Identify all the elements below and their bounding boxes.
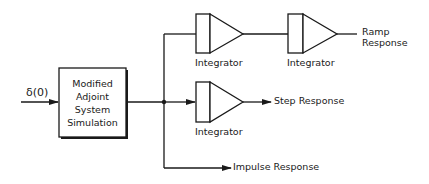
input-label: δ(0) — [26, 86, 48, 99]
main-block-line-3: System — [75, 103, 110, 116]
main-block-line-1: Modified — [72, 77, 113, 90]
ramp-response-label: Ramp Response — [362, 27, 408, 49]
integrator-2-label: Integrator — [287, 58, 335, 69]
integrator-3-label: Integrator — [195, 127, 243, 138]
main-block-line-2: Adjoint — [76, 90, 109, 103]
ramp-response-line-2: Response — [362, 38, 408, 49]
main-block-line-4: Simulation — [67, 116, 118, 129]
integrator-3 — [196, 82, 243, 122]
impulse-response-label: Impulse Response — [233, 162, 319, 173]
integrator-1-label: Integrator — [195, 58, 243, 69]
integrator-2 — [288, 14, 337, 53]
main-block-label: Modified Adjoint System Simulation — [59, 68, 126, 137]
integrator-1 — [196, 14, 243, 53]
step-response-label: Step Response — [274, 96, 344, 107]
